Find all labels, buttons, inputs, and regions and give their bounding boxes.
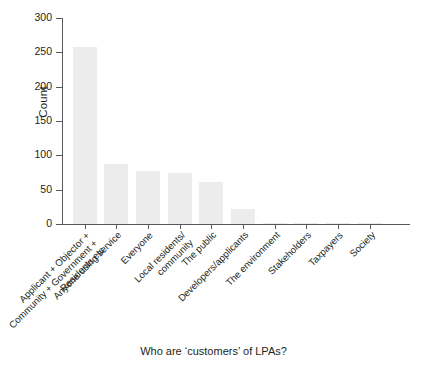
x-tick (275, 224, 276, 229)
x-tick (370, 224, 371, 229)
y-tick-label: 0 (46, 217, 52, 229)
x-tick (338, 224, 339, 229)
x-category-label: Applicant + Objector +Community + Govern… (0, 230, 107, 337)
y-tick-label: 100 (34, 148, 52, 160)
y-axis-line (62, 18, 63, 224)
x-axis-line (62, 224, 410, 225)
x-tick (243, 224, 244, 229)
y-tick-200: 200 (56, 87, 62, 88)
bar (168, 173, 192, 224)
x-tick (306, 224, 307, 229)
y-tick-label: 250 (34, 45, 52, 57)
bar (358, 223, 382, 224)
x-category-label-line: Society (348, 230, 378, 260)
y-tick-50: 50 (56, 190, 62, 191)
y-tick-100: 100 (56, 155, 62, 156)
y-tick-250: 250 (56, 52, 62, 53)
y-tick-label: 200 (34, 80, 52, 92)
x-tick (211, 224, 212, 229)
bar (263, 223, 287, 224)
y-tick-label: 300 (34, 11, 52, 23)
x-tick (148, 224, 149, 229)
x-tick (85, 224, 86, 229)
y-tick-label: 150 (34, 114, 52, 126)
x-category-label-line: Community + Government + (7, 238, 100, 331)
bar (294, 223, 318, 224)
bar (136, 171, 160, 224)
x-category-label: Society (348, 230, 378, 260)
bar (104, 164, 128, 224)
bar-chart-figure: Count 050100150200250300 Applicant + Obj… (0, 0, 427, 388)
y-tick-label: 50 (40, 183, 52, 195)
bar (326, 223, 350, 224)
x-tick (116, 224, 117, 229)
plot-area: 050100150200250300 (62, 18, 410, 224)
y-tick-150: 150 (56, 121, 62, 122)
bar (231, 209, 255, 224)
bar (73, 47, 97, 224)
y-tick-300: 300 (56, 18, 62, 19)
y-tick-0: 0 (56, 224, 62, 225)
bar (199, 182, 223, 224)
x-axis-title: Who are ‘customers’ of LPAs? (0, 345, 427, 357)
x-tick (180, 224, 181, 229)
